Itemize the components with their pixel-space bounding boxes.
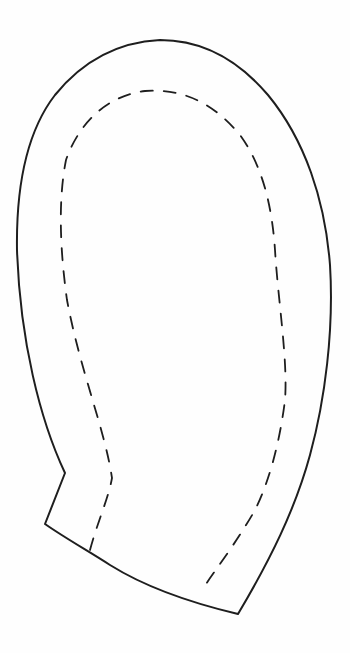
pattern-canvas: [0, 0, 350, 653]
outer-cut-line: [17, 40, 331, 614]
mitten-pattern-diagram: [0, 0, 350, 653]
inner-seam-line: [61, 91, 286, 590]
